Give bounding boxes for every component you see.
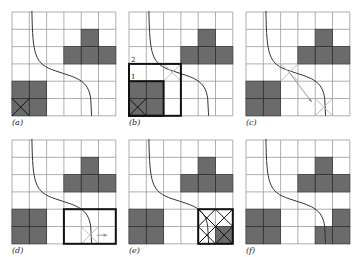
filled-cell [29,81,46,98]
window-number: 2 [131,56,135,64]
arrow-icon [289,73,311,102]
filled-cell [129,227,146,244]
filled-cell [81,157,98,174]
filled-cell [129,209,146,226]
filled-cell [298,175,315,192]
panel-label: (b) [129,118,140,127]
filled-cell [146,209,163,226]
filled-cell [246,81,263,98]
filled-cell [263,227,280,244]
filled-cell [81,175,98,192]
panel-c: (c) [246,11,350,127]
window-number: 1 [131,73,135,81]
filled-cell [263,99,280,116]
panel-label: (f) [246,246,255,255]
filled-cell [333,227,350,244]
filled-cell [315,157,332,174]
filled-cell [29,209,46,226]
filled-cell [315,227,332,244]
filled-cell [64,175,81,192]
filled-cell [129,81,146,98]
filled-cell [198,47,215,64]
panel-a: (a) [12,11,116,127]
filled-cell [146,227,163,244]
filled-cell [12,227,29,244]
panel-f: (f) [246,139,350,255]
panel-b: 21(b) [129,11,233,127]
filled-cell [333,47,350,64]
filled-cell [198,29,215,46]
filled-cell [81,29,98,46]
panel-label: (d) [12,246,23,255]
filled-cell [198,157,215,174]
filled-cell [181,47,198,64]
filled-cell [198,175,215,192]
panel-label: (e) [129,246,140,255]
filled-cell [181,175,198,192]
filled-cell [12,209,29,226]
filled-cell [99,47,116,64]
filled-cell [146,99,163,116]
filled-cell [246,227,263,244]
filled-cell [263,209,280,226]
filled-cell [333,175,350,192]
figure-canvas: (a)21(b)(c)(d)(e)(f) [0,0,355,257]
filled-cell [216,175,233,192]
panel-label: (c) [246,118,257,127]
filled-cell [12,81,29,98]
filled-cell [298,47,315,64]
filled-cell [29,99,46,116]
filled-cell [246,99,263,116]
panel-label: (a) [12,118,23,127]
panel-e: (e) [129,139,233,255]
filled-cell [216,47,233,64]
filled-cell [146,81,163,98]
filled-cell [263,81,280,98]
filled-cell [333,209,350,226]
panel-d: (d) [12,139,116,255]
filled-cell [29,227,46,244]
filled-cell [315,175,332,192]
filled-cell [99,175,116,192]
filled-cell [315,47,332,64]
filled-cell [315,29,332,46]
filled-cell [246,209,263,226]
filled-cell [64,47,81,64]
filled-cell [81,47,98,64]
